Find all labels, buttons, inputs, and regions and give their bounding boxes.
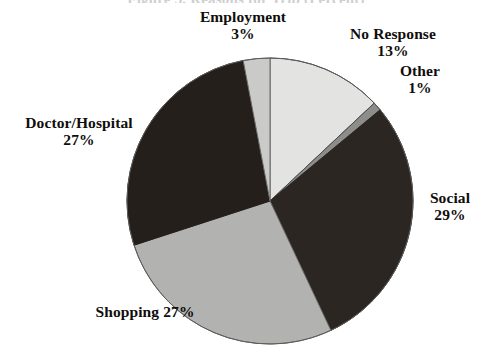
pie-label-shopping: Shopping 27% — [60, 303, 230, 320]
pie-label-no-response-name: No Response — [318, 25, 468, 42]
pie-label-shopping-value: 27% — [163, 303, 194, 320]
pie-label-no-response-value: 13% — [318, 42, 468, 59]
pie-label-shopping-name: Shopping — [95, 303, 159, 320]
pie-label-employment: Employment 3% — [175, 8, 311, 43]
chart-canvas: Figure 3. Reasons for Trip (Percent) Emp… — [0, 0, 492, 349]
pie-label-social-name: Social — [412, 189, 488, 206]
pie-label-other: Other 1% — [372, 62, 468, 97]
pie-label-social-value: 29% — [412, 206, 488, 223]
pie-label-doctor-hospital: Doctor/Hospital 27% — [6, 114, 152, 149]
pie-label-employment-value: 3% — [175, 25, 311, 42]
pie-slice-group — [127, 58, 413, 344]
pie-label-employment-name: Employment — [175, 8, 311, 25]
pie-label-other-value: 1% — [372, 79, 468, 96]
pie-label-social: Social 29% — [412, 189, 488, 224]
pie-label-no-response: No Response 13% — [318, 25, 468, 60]
pie-label-doctor-hospital-value: 27% — [6, 131, 152, 148]
pie-label-other-name: Other — [372, 62, 468, 79]
pie-label-doctor-hospital-name: Doctor/Hospital — [6, 114, 152, 131]
